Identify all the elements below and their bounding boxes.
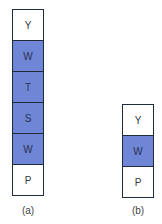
caption-a: (a) <box>12 205 44 216</box>
cell-a-y: Y <box>12 9 44 41</box>
cell-a-t: T <box>12 71 44 103</box>
cell-a-w-2: W <box>12 133 44 165</box>
cell-b-p: P <box>122 166 154 198</box>
cell-a-s: S <box>12 102 44 134</box>
caption-b: (b) <box>122 205 154 216</box>
stack-b: Y W P <box>122 104 154 198</box>
cell-b-y: Y <box>122 104 154 136</box>
cell-a-w-1: W <box>12 40 44 72</box>
cell-b-w: W <box>122 135 154 167</box>
cell-a-p: P <box>12 164 44 196</box>
stack-a: Y W T S W P <box>12 9 44 196</box>
